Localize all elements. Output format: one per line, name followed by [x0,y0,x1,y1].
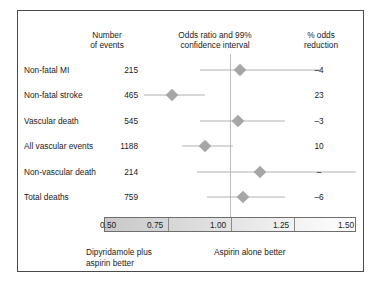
axis-tick-label: 1.25 [273,220,289,230]
row-outcome-label: Total deaths [24,192,69,202]
row-odds-reduction: 23 [298,90,340,100]
forest-row: Total deaths759–6 [18,186,363,209]
row-outcome-label: Non-fatal MI [24,65,69,75]
row-event-count: 215 [76,65,138,75]
row-odds-reduction: –4 [298,65,340,75]
column-header-odds-ratio: Odds ratio and 99% confidence interval [151,30,279,50]
row-event-count: 214 [76,167,138,177]
row-odds-reduction: –6 [298,192,340,202]
point-estimate-diamond [231,114,244,127]
forest-row: Non-fatal stroke46523 [18,84,363,107]
axis-tick-label: 0.50 [100,220,116,230]
forest-row: Non-fatal MI215–4 [18,58,363,81]
axis-tick-label: 0.75 [147,220,163,230]
axis-tick [231,218,232,231]
forest-row: All vascular events118810 [18,135,363,158]
point-estimate-diamond [198,140,211,153]
point-estimate-diamond [234,63,247,76]
row-event-count: 545 [76,116,138,126]
row-odds-reduction: – [298,167,340,177]
footer-label-right: Aspirin alone better [214,247,344,258]
row-outcome-label: Non-fatal stroke [24,90,83,100]
forest-row: Vascular death545–3 [18,109,363,132]
column-header-odds-reduction: % odds reduction [290,30,352,50]
axis-tick [168,218,169,231]
row-event-count: 759 [76,192,138,202]
row-outcome-label: Vascular death [24,116,79,126]
row-event-count: 465 [76,90,138,100]
row-event-count: 1188 [76,141,138,151]
axis-scale-bar [104,217,356,232]
point-estimate-diamond [236,191,249,204]
axis-tick [294,218,295,231]
point-estimate-diamond [254,165,267,178]
column-header-number-of-events: Number of events [76,30,138,50]
point-estimate-diamond [166,89,179,102]
axis-tick-label: 1.50 [338,220,354,230]
forest-row: Non-vascular death214– [18,160,363,183]
axis-tick-label: 1.00 [210,220,226,230]
footer-label-left: Dipyridamole plus aspirin better [86,247,196,268]
row-odds-reduction: –3 [298,116,340,126]
row-odds-reduction: 10 [298,141,340,151]
forest-plot-figure: Number of events Odds ratio and 99% conf… [17,10,364,272]
